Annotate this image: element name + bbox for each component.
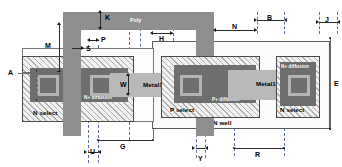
dimension-N-line <box>214 30 257 31</box>
dimension-A-guide <box>37 70 38 101</box>
dimension-Y-arrow-right <box>205 146 208 150</box>
metal1-right-label: Metal1 <box>256 81 276 87</box>
dimension-K-label: K <box>105 14 110 21</box>
dimension-M-line <box>59 24 60 73</box>
dimension-K-arrow-top <box>98 10 102 13</box>
dimension-E-line <box>330 38 331 130</box>
ndiff-left-label: N+ diffusion <box>84 96 112 101</box>
dimension-H-label: H <box>159 35 164 42</box>
dimension-B-arrow-right <box>284 18 287 22</box>
dimension-P-label: P <box>101 36 106 43</box>
metal1-left-label: Metal1 <box>143 82 163 88</box>
dimension-J-arrow-right <box>337 20 340 24</box>
layout-diagram-canvas: N well N select N+ diffusion Poly Metal1… <box>0 0 342 167</box>
poly-gate-left <box>63 12 81 136</box>
nwell-label: N well <box>213 120 231 126</box>
dimension-R-label: R <box>255 151 260 158</box>
dimension-N-arrow-right <box>254 28 257 32</box>
contact-cut <box>183 78 199 93</box>
dimension-A-leader <box>18 73 36 74</box>
dimension-R-line <box>234 148 284 149</box>
nselect-right-label: N select <box>280 107 305 113</box>
dimension-B-label: B <box>267 14 272 21</box>
dimension-J-label: J <box>325 16 329 23</box>
dimension-J-arrow-left <box>316 20 319 24</box>
dimension-M-ext <box>22 72 60 73</box>
dimension-K-arrow-bottom <box>98 27 102 30</box>
dimension-Y-arrow-left <box>192 146 195 150</box>
pselect-label: P select <box>170 107 194 113</box>
dimension-G-line <box>98 140 154 141</box>
contact-cut <box>291 78 307 93</box>
dimension-U-label: U <box>90 148 95 155</box>
dimension-A-label: A <box>8 69 13 76</box>
poly-label: Poly <box>130 18 141 23</box>
dimension-H-arrow-right <box>170 31 173 35</box>
dimension-W-line <box>128 75 129 95</box>
guide-line <box>319 12 320 34</box>
dimension-Y-label: Y <box>198 155 203 162</box>
dimension-H-arrow-left <box>150 31 153 35</box>
dimension-U-arrow-left <box>84 150 87 154</box>
dimension-E-label: E <box>334 80 339 87</box>
ndiff-right-label: N+ diffusion <box>281 65 309 70</box>
contact-cut <box>93 78 109 93</box>
dimension-N-arrow-left <box>213 28 216 32</box>
nselect-left-label: N select <box>33 110 58 116</box>
contact-cut <box>40 78 56 93</box>
dimension-S-arrow <box>81 46 84 50</box>
guide-line <box>257 12 258 34</box>
dimension-W-label: W <box>120 81 127 88</box>
dimension-N-label: N <box>232 23 237 30</box>
dimension-P-arrow-right <box>96 38 99 42</box>
dimension-G-label: G <box>120 143 125 150</box>
dimension-B-arrow-left <box>254 18 257 22</box>
guide-line <box>284 12 285 34</box>
dimension-M-arrow-top <box>57 22 61 25</box>
dimension-W-arrow-top <box>126 73 130 76</box>
dimension-P-arrow-left <box>87 38 90 42</box>
dimension-Y-line <box>196 148 205 149</box>
dimension-U-arrow-right <box>98 150 101 154</box>
dimension-W-arrow-bottom <box>126 93 130 96</box>
dimension-G-ext <box>153 129 154 141</box>
dimension-S-label: S <box>86 45 91 52</box>
dimension-M-label: M <box>45 42 51 49</box>
